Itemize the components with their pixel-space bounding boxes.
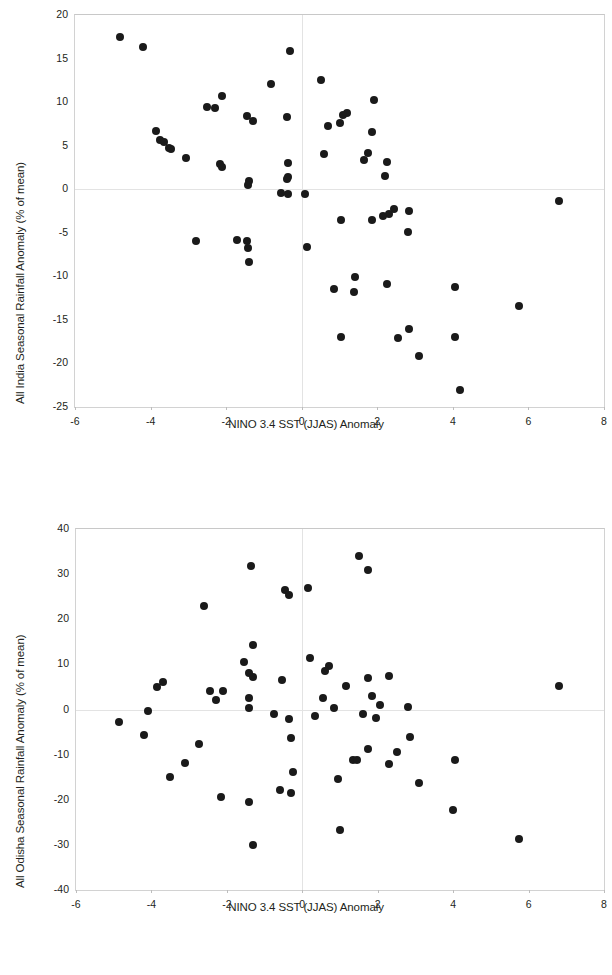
data-point: [555, 197, 563, 205]
x-axis-tick-label: 2: [358, 899, 398, 910]
data-point: [319, 694, 327, 702]
data-point: [140, 731, 148, 739]
zero-gridline: [75, 189, 604, 190]
data-point: [245, 694, 253, 702]
x-axis-tick-label: 8: [584, 899, 612, 910]
y-axis-tick-label: 30: [29, 568, 69, 579]
x-axis-tick-label: -6: [56, 899, 96, 910]
x-axis-tick-label: 8: [584, 416, 612, 427]
data-point: [247, 562, 255, 570]
x-axis-tick-label: -2: [207, 899, 247, 910]
y-axis-label-all-india: All India Seasonal Rainfall Anomaly (% o…: [14, 162, 26, 404]
y-axis-label-all-odisha: All Odisha Seasonal Rainfall Anomaly (% …: [14, 635, 26, 888]
data-point: [166, 773, 174, 781]
y-axis-tick-label: -40: [29, 884, 69, 895]
y-axis-tick-label: 40: [29, 523, 69, 534]
data-point: [303, 243, 311, 251]
data-point: [249, 117, 257, 125]
x-axis-tick-label: 4: [433, 416, 473, 427]
data-point: [244, 181, 252, 189]
plot-area-all-india: [74, 14, 605, 408]
data-point: [211, 104, 219, 112]
x-axis-tick-mark: [227, 890, 228, 893]
data-point: [116, 33, 124, 41]
x-axis-tick-mark: [76, 890, 77, 893]
zero-gridline-vertical: [302, 529, 303, 890]
data-point: [245, 258, 253, 266]
data-point: [379, 212, 387, 220]
data-point: [287, 734, 295, 742]
x-axis-tick-label: 6: [508, 416, 548, 427]
data-point: [270, 710, 278, 718]
x-axis-tick-mark: [151, 890, 152, 893]
data-point: [337, 333, 345, 341]
data-point: [393, 748, 401, 756]
data-point: [449, 806, 457, 814]
x-axis-tick-mark: [226, 407, 227, 410]
x-axis-tick-label: -4: [131, 416, 171, 427]
data-point: [167, 145, 175, 153]
y-axis-tick-label: 20: [29, 613, 69, 624]
data-point: [284, 159, 292, 167]
x-axis-tick-label: 0: [282, 899, 322, 910]
data-point: [219, 687, 227, 695]
data-point: [351, 273, 359, 281]
data-point: [218, 163, 226, 171]
data-point: [334, 775, 342, 783]
data-point: [364, 566, 372, 574]
x-axis-tick-mark: [528, 407, 529, 410]
data-point: [245, 704, 253, 712]
data-point: [368, 692, 376, 700]
y-axis-tick-label: 15: [28, 53, 68, 64]
scatter-plot-figure: All India Seasonal Rainfall Anomaly (% o…: [0, 0, 612, 975]
data-point: [339, 111, 347, 119]
x-axis-tick-mark: [302, 890, 303, 893]
data-point: [368, 216, 376, 224]
data-point: [359, 710, 367, 718]
y-axis-tick-label: 5: [28, 140, 68, 151]
data-point: [212, 696, 220, 704]
data-point: [192, 237, 200, 245]
data-point: [115, 718, 123, 726]
data-point: [249, 673, 257, 681]
y-axis-tick-label: -30: [29, 839, 69, 850]
data-point: [218, 92, 226, 100]
plot-area-all-odisha: [75, 528, 605, 891]
data-point: [195, 740, 203, 748]
data-point: [306, 654, 314, 662]
x-axis-tick-label: 6: [509, 899, 549, 910]
data-point: [181, 759, 189, 767]
data-point: [515, 302, 523, 310]
data-point: [144, 707, 152, 715]
data-point: [405, 325, 413, 333]
data-point: [153, 683, 161, 691]
y-axis-tick-label: 0: [28, 183, 68, 194]
data-point: [385, 672, 393, 680]
x-axis-tick-mark: [302, 407, 303, 410]
x-axis-tick-mark: [529, 890, 530, 893]
x-axis-tick-mark: [604, 407, 605, 410]
data-point: [217, 793, 225, 801]
x-axis-tick-mark: [377, 407, 378, 410]
y-axis-tick-label: 0: [29, 704, 69, 715]
data-point: [381, 172, 389, 180]
x-axis-tick-mark: [378, 890, 379, 893]
y-axis-tick-label: -15: [28, 314, 68, 325]
data-point: [278, 676, 286, 684]
chart-panel-all-india: All India Seasonal Rainfall Anomaly (% o…: [0, 0, 612, 490]
x-axis-tick-mark: [151, 407, 152, 410]
x-axis-tick-label: 4: [433, 899, 473, 910]
data-point: [283, 175, 291, 183]
data-point: [355, 552, 363, 560]
data-point: [289, 768, 297, 776]
x-axis-tick-label: -6: [55, 416, 95, 427]
data-point: [515, 835, 523, 843]
data-point: [267, 80, 275, 88]
data-point: [330, 704, 338, 712]
data-point: [372, 714, 380, 722]
data-point: [285, 591, 293, 599]
data-point: [456, 386, 464, 394]
data-point: [249, 641, 257, 649]
y-axis-tick-label: -10: [28, 270, 68, 281]
x-axis-tick-label: -4: [131, 899, 171, 910]
